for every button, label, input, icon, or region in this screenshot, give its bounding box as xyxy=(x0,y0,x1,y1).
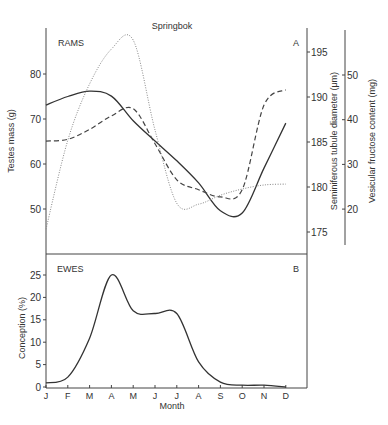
month-label: A xyxy=(196,391,202,401)
tick-label: 60 xyxy=(30,159,42,170)
fructose-axis-label: Vesicular fructose content (mg) xyxy=(367,79,377,203)
month-label: S xyxy=(217,391,223,401)
tick-label: 30 xyxy=(347,159,359,170)
tick-label: 190 xyxy=(311,92,328,103)
month-label: J xyxy=(44,391,49,401)
tick-label: 50 xyxy=(347,70,359,81)
panel-a: RAMS A 50607080 175180185190195 20304050… xyxy=(6,28,377,254)
month-axis: JFMAMJJASOND xyxy=(44,385,290,401)
tubule-diameter-axis-label: Seminiferous tubule diameter (μm) xyxy=(329,72,339,210)
tick-label: 195 xyxy=(311,47,328,58)
tick-label: 10 xyxy=(30,337,42,348)
tick-label: 70 xyxy=(30,114,42,125)
tick-label: 15 xyxy=(30,314,42,325)
month-label: A xyxy=(108,391,114,401)
month-label: J xyxy=(153,391,158,401)
tick-label: 20 xyxy=(347,204,359,215)
springbok-chart: Springbok RAMS A 50607080 17518018519019… xyxy=(0,0,388,425)
month-label: J xyxy=(175,391,180,401)
testes-mass-axis-label: Testes mass (g) xyxy=(6,109,16,173)
tick-label: 175 xyxy=(311,227,328,238)
panel-a-label: RAMS xyxy=(58,38,84,48)
tick-label: 50 xyxy=(30,204,42,215)
panel-b-label: EWES xyxy=(57,264,84,274)
month-label: M xyxy=(86,391,94,401)
fructose-axis: 20304050 xyxy=(342,70,359,215)
tick-label: 180 xyxy=(311,182,328,193)
chart-title: Springbok xyxy=(152,21,193,31)
conception-axis-label: Conception (%) xyxy=(17,297,27,359)
conception-line xyxy=(46,275,286,387)
tubule-diameter-axis: 175180185190195 xyxy=(307,47,328,238)
tick-label: 25 xyxy=(30,270,42,281)
panel-b-letter: B xyxy=(293,264,299,274)
tick-label: 20 xyxy=(30,292,42,303)
testes-mass-axis: 50607080 xyxy=(30,69,46,215)
tick-label: 185 xyxy=(311,137,328,148)
panel-a-letter: A xyxy=(293,38,299,48)
month-label: N xyxy=(261,391,268,401)
tick-label: 5 xyxy=(35,359,41,370)
panel-b: EWES B 0510152025 JFMAMJJASOND Conceptio… xyxy=(17,254,307,411)
tick-label: 80 xyxy=(30,69,42,80)
month-label: D xyxy=(283,391,290,401)
testes-mass-line xyxy=(46,91,286,217)
conception-axis: 0510152025 xyxy=(30,270,46,393)
month-label: F xyxy=(65,391,71,401)
month-label: O xyxy=(239,391,246,401)
month-label: M xyxy=(129,391,137,401)
month-axis-label: Month xyxy=(159,401,184,411)
tick-label: 0 xyxy=(35,382,41,393)
tubule-diameter-line xyxy=(46,90,286,199)
tick-label: 40 xyxy=(347,114,359,125)
